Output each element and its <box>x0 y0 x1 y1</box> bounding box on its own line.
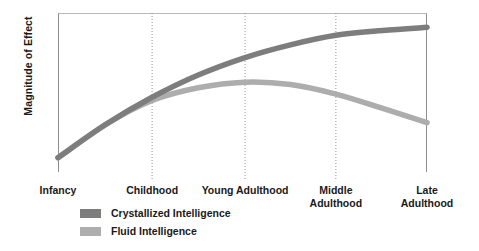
series-line-crystallized-intelligence <box>58 27 427 157</box>
legend-item-label: Crystallized Intelligence <box>111 207 231 219</box>
legend-item: Crystallized Intelligence <box>80 206 231 220</box>
chart-legend: Crystallized Intelligence Fluid Intellig… <box>80 206 231 242</box>
legend-item: Fluid Intelligence <box>80 224 231 238</box>
legend-swatch-icon <box>80 209 101 218</box>
legend-swatch-icon <box>80 227 101 236</box>
x-axis-tick-4: Late Adulthood <box>372 184 479 209</box>
chart-figure: Magnitude of Effect InfancyChildhoodYoun… <box>0 0 479 251</box>
legend-item-label: Fluid Intelligence <box>111 225 197 237</box>
chart-canvas <box>0 0 479 251</box>
